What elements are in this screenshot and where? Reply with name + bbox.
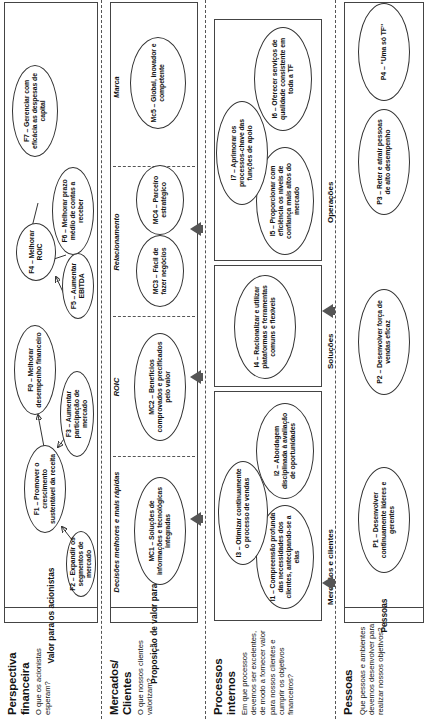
objective-P4[interactable]: P4 – "Uma só TF" [358, 3, 410, 101]
caption-operacoes: Operações [326, 182, 335, 223]
section-divider-1 [113, 456, 195, 457]
section-label-decisoes: Decisões melhores e mais rápidas [112, 457, 121, 607]
band-header-clientes: Proposição de valor para o cliente [110, 607, 198, 623]
band-financeira: Valor para os acionistas F2 – Expandir o… [4, 2, 98, 623]
objective-F5[interactable]: F5 – Aumentar EBITDA [62, 253, 94, 319]
objective-P1[interactable]: P1 – Desenvolver continuamente líderes e… [358, 467, 410, 573]
objective-P2[interactable]: P2 – Desenvolver força de vendas eficaz [358, 289, 410, 395]
processos-section-captions: Mercados e clientes Soluções Operações [326, 19, 338, 623]
objective-F7[interactable]: F7 – Gerenciar com eficácia as despesas … [12, 65, 58, 157]
band-pessoas: Pessoas P1 – Desenvolver continuamente l… [344, 2, 424, 623]
objective-MC4[interactable]: MC4 – Parceiro estratégico [136, 165, 184, 235]
rotated-diagram-frame: Perspectiva financeira O que os acionist… [0, 0, 429, 719]
perspective-title-clientes: Mercados/ Clientes [108, 623, 133, 715]
objective-F0[interactable]: F0 – Melhorar desempenho financeiro [14, 325, 56, 415]
objective-F2[interactable]: F2 – Expandir os segmentos de mercado [66, 531, 96, 597]
perspective-title-processos: Processos internos [212, 623, 237, 715]
perspective-label-pessoas: Pessoas Que pessoas e ambientes devemos … [342, 623, 385, 715]
objective-MC1[interactable]: MC1 – Soluções de informações e tecnológ… [134, 477, 186, 585]
objective-F6[interactable]: F6 – Melhorar prazo médio de contas a re… [52, 167, 94, 255]
up-arrow-operacoes [190, 222, 201, 236]
caption-mercados-e-clientes: Mercados e clientes [326, 529, 335, 605]
objective-I6[interactable]: I6 – Oferecer serviços de qualidade cons… [254, 27, 312, 131]
objective-F3[interactable]: F3 – Aumentar participação de mercado [60, 371, 94, 457]
perspective-label-processos: Processos internos Em que processos deve… [212, 623, 295, 715]
objective-MC2[interactable]: MC2 – Benefícios comprovados e precifica… [134, 333, 186, 441]
perspective-question-processos: Em que processos devemos ser excelentes,… [240, 623, 295, 715]
section-label-marca: Marca [112, 7, 121, 167]
perspective-label-clientes: Mercados/ Clientes O que nossos clientes… [108, 623, 154, 715]
up-arrow-pessoas-2 [322, 304, 333, 318]
section-divider-2 [113, 316, 195, 317]
up-arrow-solucoes [190, 370, 201, 384]
band-clientes-body: Decisões melhores e mais rápidas ROIC Re… [110, 2, 198, 607]
objective-P3[interactable]: P3 – Reter e atrair pessoas de alto dese… [358, 109, 410, 215]
objective-I7[interactable]: I7 – Aprimorar os processos-chave das fu… [216, 101, 268, 205]
section-label-roic: ROIC [112, 317, 121, 457]
band-pessoas-body: P1 – Desenvolver continuamente líderes e… [344, 2, 424, 607]
objective-I2[interactable]: I2 – Abordagem disciplinada à avaliação … [256, 403, 314, 499]
up-arrow-mercados [190, 512, 201, 526]
objective-MC5[interactable]: Mc5 – Global, inovador e competente [130, 37, 186, 129]
band-header-pessoas: Pessoas [344, 607, 424, 623]
perspective-divider-2 [205, 0, 206, 719]
perspective-title-financeira: Perspectiva financeira [6, 623, 31, 715]
up-arrow-pessoas-1 [322, 576, 333, 590]
strategy-map-canvas: Perspectiva financeira O que os acionist… [0, 0, 429, 719]
band-financeira-body: F2 – Expandir os segmentos de mercado F1… [4, 2, 98, 607]
caption-solucoes: Soluções [326, 333, 335, 369]
band-header-financeira: Valor para os acionistas [4, 607, 98, 623]
perspective-question-pessoas: Que pessoas e ambientes devemos desenvol… [358, 623, 386, 715]
objective-MC3[interactable]: MC3 – Fácil de fazer negócios [136, 235, 184, 307]
objective-F1[interactable]: F1 – Promover o crescimento sustentável … [24, 445, 66, 533]
band-processos: I1 – Compreensão profunda das necessidad… [212, 2, 324, 623]
objective-I4[interactable]: I4 – Racionalizar e utilizar plataformas… [234, 275, 296, 379]
perspective-title-pessoas: Pessoas [342, 623, 355, 715]
objective-F4[interactable]: F4 – Melhorar ROIC [16, 223, 56, 281]
band-processos-body: I1 – Compreensão profunda das necessidad… [212, 2, 324, 623]
perspective-label-column: Perspectiva financeira O que os acionist… [0, 623, 429, 719]
section-label-relacionamento: Relacionamento [112, 167, 121, 317]
band-clientes: Proposição de valor para o cliente Decis… [110, 2, 198, 623]
perspective-divider-1 [101, 0, 102, 719]
